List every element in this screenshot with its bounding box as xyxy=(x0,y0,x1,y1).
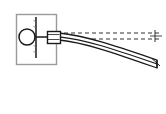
cantilever-deflection-diagram xyxy=(0,0,166,114)
beam-clamp-block xyxy=(48,32,61,44)
figure-root xyxy=(0,0,166,114)
pivot-hub-circle xyxy=(19,29,35,45)
